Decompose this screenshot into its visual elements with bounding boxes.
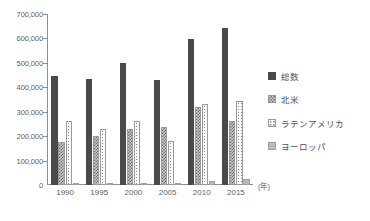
chart-legend: 総数北米ラテンアメリカヨーロッパ bbox=[268, 70, 368, 164]
y-axis-tick-label: 500,000 bbox=[17, 58, 43, 67]
y-axis-tick-label: 200,000 bbox=[17, 132, 43, 141]
legend-label: 総数 bbox=[281, 70, 299, 82]
y-axis-tick-label: 700,000 bbox=[17, 10, 43, 19]
bar-latin-america bbox=[236, 101, 242, 185]
y-axis-tick bbox=[43, 14, 47, 15]
bar-group bbox=[188, 14, 216, 185]
bar-groups bbox=[48, 14, 253, 185]
bar-latin-america bbox=[66, 121, 72, 185]
y-axis-labels: 0100,000200,000300,000400,000500,000600,… bbox=[0, 14, 45, 185]
legend-swatch-icon bbox=[268, 119, 276, 127]
bar-total bbox=[51, 76, 57, 185]
bar-group bbox=[120, 14, 148, 185]
legend-item: ヨーロッパ bbox=[268, 141, 368, 152]
bar-group bbox=[51, 14, 79, 185]
legend-swatch-icon bbox=[268, 142, 276, 150]
y-axis-tick bbox=[43, 161, 47, 162]
y-axis-tick-label: 300,000 bbox=[17, 107, 43, 116]
legend-label: 北米 bbox=[281, 93, 299, 105]
bar-europe bbox=[73, 183, 79, 185]
bar-north-america bbox=[127, 129, 133, 185]
y-axis-tick-label: 600,000 bbox=[17, 34, 43, 43]
bar-north-america bbox=[195, 107, 201, 185]
x-axis-labels: 199019952000200520102015 bbox=[47, 188, 253, 202]
bar-group bbox=[86, 14, 114, 185]
bar-latin-america bbox=[202, 104, 208, 185]
bar-north-america bbox=[161, 127, 167, 185]
bar-latin-america bbox=[134, 121, 140, 185]
bar-europe bbox=[175, 183, 181, 185]
legend-item: ラテンアメリカ bbox=[268, 117, 368, 128]
x-axis-tick-label: 2010 bbox=[193, 188, 211, 197]
legend-item: 北米 bbox=[268, 94, 368, 105]
plot-area bbox=[47, 14, 252, 185]
bar-total bbox=[222, 28, 228, 185]
y-axis-tick-label: 0 bbox=[39, 181, 43, 190]
x-axis-tick-label: 2000 bbox=[125, 188, 143, 197]
bar-group bbox=[222, 14, 250, 185]
bar-group bbox=[154, 14, 182, 185]
bar-europe bbox=[107, 183, 113, 185]
y-axis-tick bbox=[43, 63, 47, 64]
bar-latin-america bbox=[100, 129, 106, 185]
bar-north-america bbox=[229, 121, 235, 185]
y-axis-tick bbox=[43, 136, 47, 137]
legend-swatch-icon bbox=[268, 95, 276, 103]
x-axis-tick-label: 2015 bbox=[227, 188, 245, 197]
bar-chart: 0100,000200,000300,000400,000500,000600,… bbox=[0, 0, 370, 221]
bar-europe bbox=[141, 183, 147, 185]
y-axis-tick-label: 400,000 bbox=[17, 83, 43, 92]
bar-north-america bbox=[58, 142, 64, 185]
bar-total bbox=[120, 63, 126, 185]
bar-total bbox=[188, 39, 194, 185]
y-axis-tick bbox=[43, 87, 47, 88]
bar-total bbox=[86, 79, 92, 185]
bar-europe bbox=[243, 179, 249, 185]
bar-total bbox=[154, 80, 160, 185]
x-axis-unit-label: (年) bbox=[258, 180, 270, 191]
x-axis-tick-label: 1990 bbox=[56, 188, 74, 197]
legend-label: ヨーロッパ bbox=[281, 140, 326, 152]
x-axis-tick-label: 2005 bbox=[159, 188, 177, 197]
legend-swatch-icon bbox=[268, 72, 276, 80]
x-axis-tick-label: 1995 bbox=[90, 188, 108, 197]
bar-north-america bbox=[93, 136, 99, 185]
bar-latin-america bbox=[168, 141, 174, 185]
legend-item: 総数 bbox=[268, 70, 368, 81]
legend-label: ラテンアメリカ bbox=[281, 117, 344, 129]
y-axis-tick bbox=[43, 112, 47, 113]
y-axis-tick-label: 100,000 bbox=[17, 156, 43, 165]
bar-europe bbox=[209, 181, 215, 185]
y-axis-tick bbox=[43, 38, 47, 39]
